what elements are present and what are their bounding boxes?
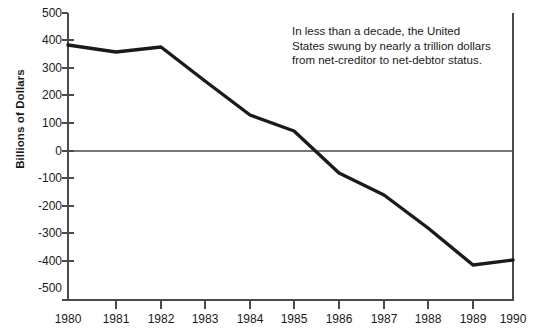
x-tick-label: 1984 <box>227 312 273 326</box>
x-tick-label: 1981 <box>93 312 139 326</box>
chart-annotation: In less than a decade, the United States… <box>292 24 517 68</box>
data-line <box>68 45 513 265</box>
x-tick-label: 1990 <box>490 312 533 326</box>
x-tick-label: 1986 <box>316 312 362 326</box>
chart-container: Billions of Dollars 500 400 300 200 100 … <box>0 0 533 335</box>
x-tick-label: 1988 <box>405 312 451 326</box>
x-tick-label: 1987 <box>361 312 407 326</box>
x-axis-ticks <box>116 300 473 309</box>
x-tick-label: 1980 <box>45 312 91 326</box>
x-tick-label: 1985 <box>271 312 317 326</box>
x-tick-label: 1982 <box>138 312 184 326</box>
x-tick-label: 1983 <box>182 312 228 326</box>
